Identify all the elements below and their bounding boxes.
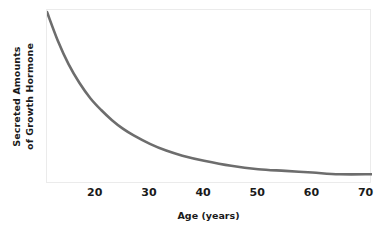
x-tick-label-40: 40 [195, 186, 210, 200]
x-tick-label-50: 50 [250, 186, 265, 200]
x-tick-label-60: 60 [304, 186, 319, 200]
plot-svg [47, 10, 372, 184]
growth-hormone-curve [47, 12, 372, 174]
y-axis-title: Secreted Amounts of Growth Hormone [0, 0, 46, 192]
y-axis-title-text: Secreted Amounts of Growth Hormone [11, 43, 36, 150]
x-axis-tick-labels: 203040506070 [46, 186, 371, 202]
x-axis-title: Age (years) [46, 210, 371, 221]
y-axis-title-line-2: of Growth Hormone [23, 43, 36, 150]
y-axis-title-line-1: Secreted Amounts [11, 43, 24, 150]
x-tick-label-30: 30 [141, 186, 156, 200]
x-tick-label-70: 70 [358, 186, 373, 200]
growth-hormone-decline-chart: Secreted Amounts of Growth Hormone 20304… [0, 0, 385, 243]
x-tick-label-20: 20 [87, 186, 102, 200]
plot-area [46, 9, 371, 183]
